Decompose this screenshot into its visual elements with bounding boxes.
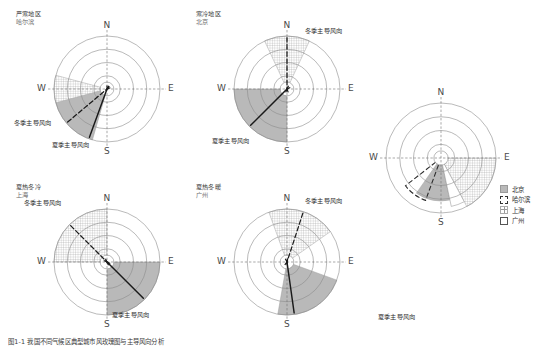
- zone-name: 严寒地区: [16, 10, 41, 17]
- cardinal-e: E: [168, 83, 174, 93]
- cardinal-w: W: [217, 83, 226, 93]
- cardinal-e: E: [168, 256, 174, 266]
- cardinal-s: S: [284, 146, 290, 156]
- summer-wind-label-beijing: 夏季主导风向: [212, 136, 249, 145]
- summer-wind-label-shanghai: 夏季主导风向: [112, 310, 149, 319]
- cardinal-s: S: [284, 319, 290, 329]
- cardinal-e: E: [348, 256, 354, 266]
- figure-canvas: NESWNESWNESWNESW NESW 北京哈尔滨上海广州 图1-1 我国不…: [0, 0, 560, 350]
- legend-label: 哈尔滨: [512, 195, 531, 204]
- cardinal-w: W: [37, 83, 46, 93]
- cardinal-w: W: [37, 256, 46, 266]
- cardinal-n: N: [104, 193, 111, 203]
- winter-wind-label-shanghai: 冬季主导风向: [24, 198, 61, 207]
- legend-item-dashed[interactable]: 哈尔滨: [500, 195, 531, 206]
- cardinal-w: W: [369, 152, 378, 162]
- figure-caption: 图1-1 我国不同气候区典型城市风玫瑰图与主导风向分析: [8, 337, 548, 346]
- legend-swatch-icon: [500, 185, 508, 193]
- legend-swatch-icon: [500, 196, 508, 204]
- wind-rose-guangzhou: NESW: [200, 175, 374, 349]
- legend-label: 上海: [512, 206, 524, 215]
- legend-swatch-icon: [500, 206, 508, 214]
- legend-label: 北京: [512, 185, 524, 194]
- city-name: 北京: [196, 18, 221, 26]
- legend-item-hatch[interactable]: 上海: [500, 205, 531, 216]
- zone-name: 夏热冬冷: [16, 183, 41, 190]
- legend-swatch-icon: [500, 217, 508, 225]
- cardinal-n: N: [438, 87, 445, 97]
- cardinal-s: S: [438, 217, 444, 227]
- zone-label-harbin: 严寒地区哈尔滨: [16, 10, 41, 26]
- cardinal-n: N: [284, 20, 291, 30]
- wind-rose-beijing: NESW: [200, 2, 374, 176]
- zone-label-shanghai: 夏热冬冷上海: [16, 183, 41, 199]
- cardinal-n: N: [284, 193, 291, 203]
- zone-label-guangzhou: 夏热冬暖广州: [196, 183, 221, 199]
- summer-wind-label-harbin: 夏季主导风向: [52, 140, 89, 149]
- legend: 北京哈尔滨上海广州: [500, 184, 531, 226]
- winter-wind-label-harbin: 冬季主导风向: [14, 118, 51, 127]
- cardinal-w: W: [217, 256, 226, 266]
- winter-wind-label-beijing: 冬季主导风向: [305, 26, 342, 35]
- wind-rose-harbin: NESW: [20, 2, 194, 176]
- cardinal-s: S: [104, 319, 110, 329]
- city-name: 广州: [196, 191, 221, 199]
- zone-name: 寒冷地区: [196, 10, 221, 17]
- sector-winter: [269, 209, 331, 262]
- zone-name: 夏热冬暖: [196, 183, 221, 190]
- legend-label: 广州: [512, 216, 524, 225]
- legend-item-solid[interactable]: 北京: [500, 184, 531, 195]
- cardinal-e: E: [504, 152, 510, 162]
- cardinal-n: N: [104, 20, 111, 30]
- cardinal-s: S: [104, 146, 110, 156]
- summer-wind-label-guangzhou: 夏季主导风向: [378, 312, 415, 321]
- city-name: 哈尔滨: [16, 18, 41, 26]
- legend-item-white[interactable]: 广州: [500, 216, 531, 227]
- zone-label-beijing: 寒冷地区北京: [196, 10, 221, 26]
- winter-wind-label-guangzhou: 冬季主导风向: [305, 196, 342, 205]
